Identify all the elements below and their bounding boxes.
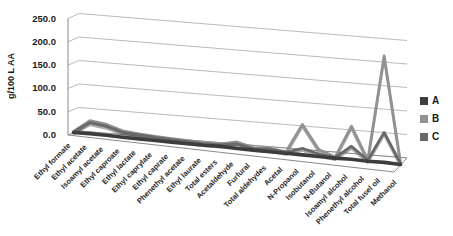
y-tick-label: 150.0 <box>32 59 56 70</box>
legend-item-A: A <box>420 96 439 106</box>
chart-legend: ABC <box>420 96 439 142</box>
y-tick-label: 100.0 <box>32 82 56 93</box>
legend-label: A <box>432 96 439 106</box>
legend-label: C <box>432 132 439 142</box>
gridline <box>68 14 407 41</box>
legend-label: B <box>432 114 439 124</box>
y-tick-label: 200.0 <box>32 36 56 47</box>
legend-swatch-icon <box>420 97 428 105</box>
gridline <box>68 61 407 88</box>
gridline <box>68 37 407 64</box>
y-tick-label: 250.0 <box>32 13 56 24</box>
y-tick-label: 0.0 <box>43 129 56 140</box>
legend-swatch-icon <box>420 115 428 123</box>
plot-area: 0.050.0100.0150.0200.0250.0g/100 L AAEth… <box>0 0 453 236</box>
gridline <box>68 84 407 111</box>
legend-item-C: C <box>420 132 439 142</box>
legend-swatch-icon <box>420 133 428 141</box>
y-axis-title: g/100 L AA <box>6 52 16 99</box>
3d-line-chart: 0.050.0100.0150.0200.0250.0g/100 L AAEth… <box>0 0 453 236</box>
legend-item-B: B <box>420 114 439 124</box>
y-tick-label: 50.0 <box>38 106 57 117</box>
